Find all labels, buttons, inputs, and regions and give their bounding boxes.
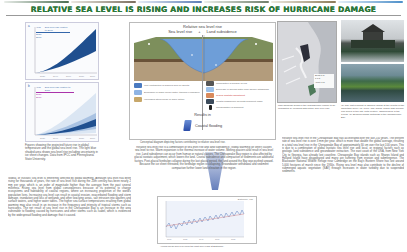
sea-level-rise-label: Sea level rise <box>168 29 192 34</box>
isostatic-adjustment-icon <box>206 93 214 98</box>
storm-surge-icon <box>134 97 142 102</box>
results-in-label: Results in <box>130 113 275 117</box>
left-body-text: Global, or eustatic sea level is inheren… <box>8 177 131 249</box>
diagram-subtitle: Sea level rise + Land subsidence <box>130 29 275 34</box>
svg-text:2060: 2060 <box>66 137 72 139</box>
table-header: Year <box>36 26 41 32</box>
legend-item: Expansion of warm ocean water (thermal e… <box>134 90 200 95</box>
color-segment <box>271 1 336 3</box>
thermal-expansion-icon <box>134 90 142 95</box>
crustal-subsidence-icon <box>206 99 214 104</box>
color-segment <box>4 1 69 3</box>
svg-text:2040: 2040 <box>53 137 59 139</box>
table-row: 2100 <box>36 96 74 99</box>
tide-gauge-plot: 19001920194019601980 <box>158 197 258 245</box>
map-legend-item: Above 3 m <box>315 81 325 84</box>
estuary-cross-section-illustration <box>134 35 273 81</box>
panel-label: b <box>28 84 30 88</box>
svg-text:1900: 1900 <box>167 238 172 240</box>
svg-text:2020: 2020 <box>40 75 46 77</box>
table-header: Sea level rise relative to 2000 <box>45 86 74 92</box>
table-header: Sea level rise relative to 2000 <box>45 26 70 32</box>
map-caption: Map showing areas of the Chesapeake regi… <box>278 104 338 110</box>
svg-text:2020: 2020 <box>40 137 46 139</box>
coastal-flooding-result: Coastal flooding <box>184 120 222 131</box>
baltimore-tide-gauge-chart: 19001920194019601980 Baltimore, MD <box>157 196 257 244</box>
legend-item: Compaction of surface layers <box>206 81 247 86</box>
projection-chart-b: 20202040206020802100 b Year Sea level ri… <box>25 82 99 142</box>
legend-item: Melt contribution of glaciers and ice sh… <box>134 83 189 88</box>
chesapeake-inundation-map: Below 1 m 1-3 m Above 3 m <box>277 21 337 103</box>
panel-label: a <box>28 24 30 28</box>
svg-text:2060: 2060 <box>66 75 72 77</box>
color-segment <box>338 1 403 3</box>
color-segment <box>71 1 136 3</box>
svg-text:1940: 1940 <box>199 238 204 240</box>
photo-caption: (a) The last remnant of Sharp's Island a… <box>341 104 405 119</box>
table-row: 2100 <box>36 36 70 39</box>
title-divider <box>6 15 401 16</box>
diagram-caption: Conceptual diagram depicting factors con… <box>140 141 270 145</box>
svg-text:2100: 2100 <box>90 75 96 77</box>
right-body-text: Relative sea level rise in the Chesapeak… <box>282 137 404 249</box>
svg-text:2080: 2080 <box>79 137 85 139</box>
glacier-melt-icon <box>134 83 142 88</box>
svg-text:1980: 1980 <box>231 238 236 240</box>
color-segment <box>138 1 203 3</box>
sharps-island-historic-photo <box>341 20 404 62</box>
map-graphic <box>278 22 336 102</box>
svg-text:2080: 2080 <box>79 75 85 77</box>
chart-b-legend-table: Year Sea level rise relative to 2000 205… <box>36 86 74 99</box>
svg-text:1960: 1960 <box>215 238 220 240</box>
map-legend: Below 1 m 1-3 m Above 3 m <box>315 74 325 84</box>
svg-text:2100: 2100 <box>90 137 96 139</box>
color-segment <box>204 1 269 3</box>
projection-figure-caption: Figures showing the projected future ris… <box>25 144 101 161</box>
projection-chart-a: 20202040206020802100 a Year Sea level ri… <box>25 22 99 80</box>
plus-sign: + <box>198 29 200 34</box>
land-subsidence-label: Land subsidence <box>207 29 237 34</box>
svg-text:2040: 2040 <box>53 75 59 77</box>
page-title: RELATIVE SEA LEVEL IS RISING AND INCREAS… <box>0 5 407 14</box>
compaction-icon <box>206 81 214 86</box>
tide-chart-caption: Annual mean sea level from the past 100 … <box>160 245 260 249</box>
center-body-text: Relative sea level rise is a combination… <box>134 146 274 192</box>
chart-station-label: Baltimore, MD <box>238 198 253 201</box>
sediment-consolidation-icon <box>209 105 212 110</box>
legend-item: Decrease in ground water from aquifer wi… <box>206 87 269 92</box>
house-silhouette <box>341 20 404 62</box>
eroding-marsh-photo <box>341 64 404 102</box>
legend-item: Crustal subsidence beneath sediment load… <box>206 99 262 104</box>
svg-text:1920: 1920 <box>183 238 188 240</box>
legend-item: Consolidation of sediment <box>206 105 244 110</box>
table-header: Year <box>36 86 41 92</box>
flooding-icon <box>183 120 192 131</box>
header-color-bar <box>0 0 407 4</box>
legend-item: Glacial isostatic adjustment <box>206 93 245 98</box>
legend-item: Increasing storm surge or wave action <box>134 97 184 102</box>
relative-sea-level-diagram: Relative sea level rise Sea level rise +… <box>129 22 276 140</box>
groundwater-icon <box>206 87 214 92</box>
chart-a-legend-table: Year Sea level rise relative to 2000 205… <box>36 26 70 39</box>
